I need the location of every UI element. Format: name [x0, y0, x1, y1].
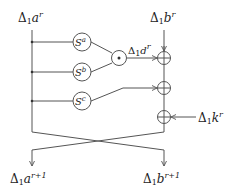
intermediate-d-label: Δ1dr — [128, 43, 151, 58]
sbox-b-label: Sb — [75, 67, 86, 78]
and-dot-icon — [118, 57, 121, 60]
output-right-label: Δ1br+1 — [143, 172, 180, 187]
diagram-canvas — [0, 0, 239, 192]
sa-to-and — [91, 42, 112, 53]
junction-dot-sa — [31, 41, 34, 44]
junction-dot-sb — [31, 71, 34, 74]
output-left-label: Δ1ar+1 — [10, 172, 47, 187]
input-right-label: Δ1br — [150, 11, 175, 26]
sbox-c-label: Sc — [75, 96, 86, 107]
junction-dot-sc — [31, 100, 34, 103]
sc-to-xor2 — [91, 88, 157, 101]
sb-to-and — [91, 63, 112, 72]
sbox-a-label: Sa — [75, 37, 86, 48]
key-input-label: Δ1kr — [198, 111, 223, 126]
input-left-label: Δ1ar — [18, 11, 43, 26]
